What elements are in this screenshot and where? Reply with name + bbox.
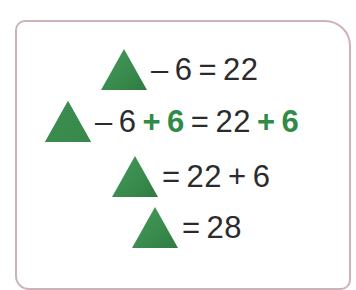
token-number-highlight: 6 [167,104,185,139]
token-equals: = [191,104,210,139]
token-minus: – [151,52,169,87]
token-number: 28 [207,210,242,245]
equation-expression: =22+6 [162,155,270,198]
token-plus-highlight: + [257,104,276,139]
token-number: 6 [253,159,271,194]
token-equals: = [182,210,201,245]
token-minus: – [95,104,113,139]
token-plus-highlight: + [143,104,162,139]
green-triangle-icon [44,100,92,143]
equation-row: –6=22 [100,48,259,91]
equation-row: –6+6=22+6 [44,100,299,143]
equation-row: =28 [131,206,242,249]
token-number: 22 [187,159,222,194]
equation-expression: –6=22 [151,48,259,91]
token-plus: + [228,159,247,194]
equation-row: =22+6 [111,155,270,198]
token-equals: = [162,159,181,194]
token-number: 6 [119,104,137,139]
token-number: 22 [223,52,258,87]
green-triangle-icon [131,206,179,249]
token-number: 6 [175,52,193,87]
token-number: 22 [215,104,250,139]
equation-expression: –6+6=22+6 [95,100,299,143]
green-triangle-icon [111,155,159,198]
green-triangle-icon [100,48,148,91]
token-equals: = [199,52,218,87]
equation-expression: =28 [182,206,242,249]
token-number-highlight: 6 [282,104,300,139]
